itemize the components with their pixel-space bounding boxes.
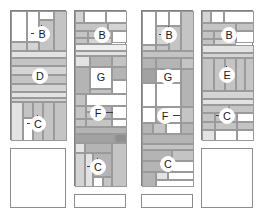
- column-2-cell: [115, 134, 127, 143]
- column-2-cell: [75, 67, 90, 94]
- column-2-cell: [75, 11, 84, 23]
- column-1-cell: [39, 11, 54, 20]
- column-3-cell: [168, 172, 194, 180]
- column-3-cell: [181, 123, 194, 134]
- callout-G: G: [160, 69, 176, 85]
- column-1: BDC: [10, 10, 66, 140]
- column-2-cell: [112, 56, 127, 67]
- column-2-cell: [112, 31, 127, 43]
- column-4-cell: [237, 122, 254, 130]
- column-3-cell: [142, 107, 156, 123]
- column-3-cell: [153, 123, 166, 134]
- column-3-cell: [181, 69, 194, 107]
- column-1-cell: [23, 102, 33, 118]
- column-4-cell: [202, 130, 215, 141]
- column-3-cell: [181, 58, 194, 69]
- column-2-cell: [86, 94, 127, 106]
- column-1-cell: [11, 51, 67, 58]
- column-3-cell: [156, 58, 181, 69]
- column-1-cell: [54, 102, 67, 141]
- column-4-cell: [202, 45, 254, 53]
- column-3: BGFC: [141, 10, 193, 186]
- column-2-cell: [75, 44, 127, 51]
- column-3-cell: [166, 123, 181, 134]
- callout-D: D: [32, 68, 48, 84]
- column-2-cell: [112, 80, 127, 94]
- column-2-cell: [108, 23, 127, 31]
- column-3-cell: [142, 58, 156, 69]
- column-2: BGFC: [74, 10, 126, 186]
- column-1-cell: [54, 11, 67, 51]
- column-4-cell: [202, 113, 215, 122]
- column-2-cell: [75, 134, 115, 143]
- column-4-cell: [236, 23, 254, 31]
- column-2-cell: [75, 106, 86, 119]
- column-4-cell: [202, 122, 215, 130]
- column-1-cell: [11, 102, 23, 141]
- column-3-cell: [172, 150, 194, 161]
- column-2-cell: [75, 94, 86, 106]
- column-2-cell: [75, 56, 90, 67]
- diagram-canvas: BDCBGFCBGFCBEC: [0, 0, 259, 220]
- column-2-cell: [75, 127, 127, 134]
- column-3-cell: [181, 11, 194, 51]
- column-4-cell: [215, 130, 237, 141]
- column-2-cell: [85, 143, 112, 153]
- callout-C: C: [219, 108, 235, 124]
- column-3-cell: [142, 83, 156, 107]
- callout-B: B: [161, 27, 177, 43]
- callout-B: B: [221, 27, 237, 43]
- column-3-cell: [169, 11, 181, 26]
- callout-C: C: [90, 159, 106, 175]
- column-2-cell: [75, 153, 85, 187]
- column-1-cell: [11, 11, 27, 42]
- column-4-cell: [211, 11, 224, 23]
- column-3-cell: [156, 11, 169, 26]
- column-3-cell: [142, 172, 156, 187]
- column-3-cell: [142, 134, 194, 144]
- callout-C: C: [160, 156, 176, 172]
- column-3-cell: [142, 123, 153, 134]
- column-3-cell: [181, 107, 194, 123]
- callout-B: B: [34, 26, 50, 42]
- column-4-cell: [236, 31, 254, 43]
- column-4-cell: [224, 11, 254, 23]
- callout-F: F: [157, 108, 173, 124]
- callout-B: B: [94, 27, 110, 43]
- column-1-cell: [27, 42, 39, 51]
- column-1-footer-box: [10, 148, 66, 208]
- column-2-cell: [112, 67, 127, 80]
- column-4: BEC: [201, 10, 253, 140]
- column-2-cell: [112, 106, 127, 119]
- column-2-cell: [75, 143, 85, 153]
- column-4-footer-box: [201, 148, 253, 208]
- column-1-cell: [11, 84, 67, 92]
- column-2-cell: [106, 11, 127, 23]
- callout-C: C: [30, 116, 46, 132]
- column-4-cell: [245, 58, 254, 91]
- column-2-cell: [112, 143, 127, 187]
- column-2-cell: [93, 177, 103, 187]
- column-2-footer-box: [74, 194, 126, 208]
- column-3-cell: [142, 69, 156, 83]
- column-2-cell: [90, 56, 112, 67]
- column-4-cell: [202, 31, 214, 39]
- column-2-cell: [112, 119, 127, 127]
- column-1-cell: [11, 58, 67, 66]
- column-3-cell: [156, 172, 168, 180]
- callout-F: F: [90, 105, 106, 121]
- column-4-cell: [237, 113, 254, 122]
- column-3-cell: [156, 180, 194, 187]
- callout-G: G: [93, 69, 109, 85]
- column-2-cell: [75, 119, 86, 127]
- column-4-cell: [202, 58, 214, 91]
- column-4-cell: [236, 58, 245, 91]
- column-4-cell: [237, 130, 254, 141]
- column-4-cell: [202, 91, 254, 99]
- column-2-cell: [103, 177, 112, 187]
- column-2-cell: [84, 11, 106, 23]
- column-1-cell: [11, 42, 27, 51]
- column-2-cell: [75, 31, 88, 38]
- column-3-cell: [156, 83, 181, 107]
- column-3-cell: [142, 51, 194, 58]
